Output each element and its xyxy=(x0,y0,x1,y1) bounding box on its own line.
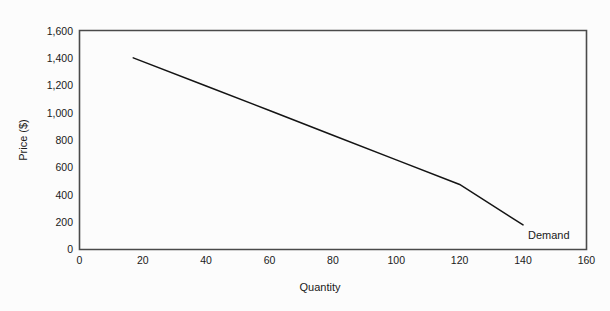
y-axis-tick-labels: 1,600 1,400 1,200 1,000 800 600 400 200 … xyxy=(47,25,73,256)
x-tick-label: 80 xyxy=(327,254,339,266)
x-axis-tick-labels: 0 20 40 60 80 100 120 140 160 xyxy=(76,254,595,266)
x-tick-label: 20 xyxy=(137,254,149,266)
demand-series-label: Demand xyxy=(528,229,570,241)
demand-series xyxy=(133,58,523,225)
x-tick-label: 120 xyxy=(451,254,469,266)
y-tick-label: 1,000 xyxy=(47,107,73,119)
y-tick-label: 200 xyxy=(55,216,73,228)
y-tick-label: 0 xyxy=(67,243,73,255)
x-tick-label: 100 xyxy=(388,254,406,266)
chart-screen: 1,600 1,400 1,200 1,000 800 600 400 200 … xyxy=(0,0,610,311)
y-axis-title: Price ($) xyxy=(17,119,29,161)
y-tick-label: 400 xyxy=(55,189,73,201)
y-tick-label: 1,400 xyxy=(47,52,73,64)
y-tick-label: 800 xyxy=(55,134,73,146)
x-tick-label: 160 xyxy=(578,254,596,266)
x-tick-label: 40 xyxy=(200,254,212,266)
demand-line xyxy=(133,58,523,225)
y-tick-label: 1,600 xyxy=(47,25,73,37)
y-tick-label: 1,200 xyxy=(47,79,73,91)
y-tick-label: 600 xyxy=(55,161,73,173)
demand-curve-chart: 1,600 1,400 1,200 1,000 800 600 400 200 … xyxy=(0,0,610,311)
x-axis-title: Quantity xyxy=(300,281,341,293)
x-tick-label: 140 xyxy=(514,254,532,266)
x-tick-label: 0 xyxy=(76,254,82,266)
x-tick-label: 60 xyxy=(264,254,276,266)
